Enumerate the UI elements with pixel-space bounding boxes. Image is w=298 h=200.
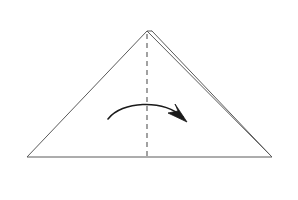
figure-background (0, 0, 298, 200)
origami-diagram: Origami fold step diagram Isosceles tria… (0, 0, 298, 200)
origami-figure-canvas: Origami fold step diagram Isosceles tria… (0, 0, 298, 200)
